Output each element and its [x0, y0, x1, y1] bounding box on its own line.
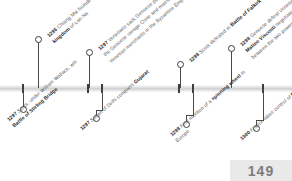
event-text-before: First mention of a: [177, 97, 213, 130]
page-number-value: 149: [248, 163, 274, 179]
event-text-before: Scots defeated in: [196, 23, 232, 56]
event-label-2: 1297 Venetians sack Genoese port in Crim…: [96, 0, 197, 65]
connector-stem: [180, 66, 181, 88]
event-node-4[interactable]: [228, 45, 235, 52]
timeline-page: 1296 Chiang Mai founded as capital of ne…: [0, 0, 292, 181]
event-node-1[interactable]: [35, 36, 42, 43]
event-label-6: 1297 Sultan of Delhi conquers Gujarat: [78, 58, 162, 132]
event-emphasis: Gujarat: [132, 68, 150, 84]
event-text-before: France takes control of: [247, 93, 292, 134]
event-node-3[interactable]: [177, 61, 184, 68]
event-emphasis: Battle of Falkirk: [229, 0, 262, 28]
page-number: 149: [230, 160, 292, 181]
connector-stem: [38, 41, 39, 88]
